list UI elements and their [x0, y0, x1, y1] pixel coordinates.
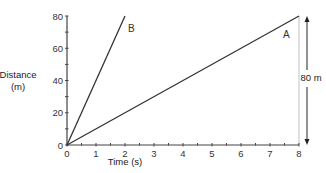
plot-area: 012345678020406080 — [52, 11, 309, 160]
y-tick-label: 60 — [52, 43, 63, 54]
x-tick-label: 3 — [151, 148, 156, 159]
arrow-up-icon — [305, 16, 310, 22]
y-tick-label: 0 — [58, 140, 63, 151]
x-tick-label: 0 — [64, 148, 69, 159]
distance-time-chart: 012345678020406080 Distance (m) Time (s)… — [0, 0, 326, 173]
distance-annotation-label: 80 m — [300, 72, 321, 83]
x-tick-label: 6 — [238, 148, 243, 159]
series-b-label: B — [128, 23, 135, 34]
series-line-a — [67, 16, 299, 145]
x-axis-label: Time (s) — [108, 156, 142, 167]
arrow-down-icon — [305, 139, 310, 145]
y-tick-label: 20 — [52, 107, 63, 118]
x-tick-label: 8 — [296, 148, 301, 159]
y-tick-label: 40 — [52, 75, 63, 86]
series-line-b — [67, 16, 125, 145]
y-axis-label-line2: (m) — [11, 81, 25, 92]
y-tick-label: 80 — [52, 11, 63, 22]
x-tick-label: 5 — [209, 148, 214, 159]
x-tick-label: 4 — [180, 148, 185, 159]
y-axis-label-line1: Distance — [0, 69, 36, 80]
series-a-label: A — [283, 29, 290, 40]
x-tick-label: 7 — [267, 148, 272, 159]
x-tick-label: 1 — [93, 148, 98, 159]
